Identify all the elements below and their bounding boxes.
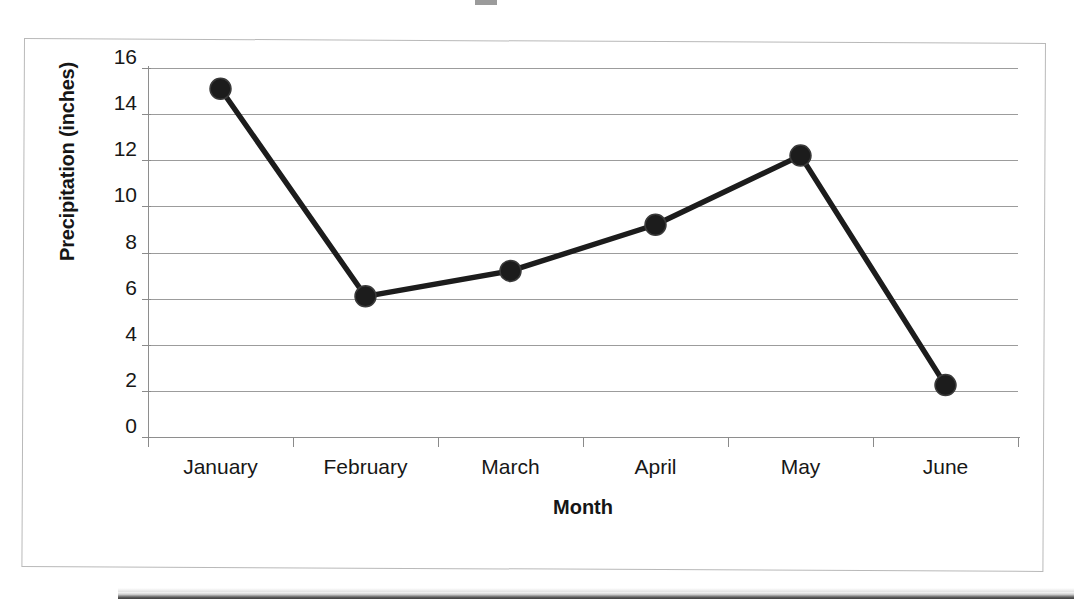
y-tick-mark: [142, 206, 151, 207]
x-tick-label: May: [728, 455, 873, 479]
x-tick-mark: [148, 437, 149, 447]
x-tick-label: April: [583, 455, 728, 479]
y-tick-mark: [142, 68, 151, 69]
x-tick-mark: [583, 437, 584, 447]
x-axis-title: Month: [148, 496, 1018, 519]
data-point-marker: [790, 145, 811, 166]
x-tick-mark: [1018, 437, 1019, 447]
x-tick-label: January: [148, 455, 293, 479]
data-point-marker: [500, 260, 521, 281]
y-tick-mark: [142, 114, 151, 115]
y-tick-mark: [142, 437, 151, 438]
y-tick-mark: [142, 345, 151, 346]
data-point-marker: [935, 375, 956, 396]
x-tick-label: June: [873, 455, 1018, 479]
x-tick-mark: [873, 437, 874, 447]
y-tick-mark: [142, 160, 151, 161]
scan-page-edge-artifact: [118, 592, 1074, 599]
line-chart: Precipitation (inches) 1614121086420 Mon…: [0, 0, 1074, 601]
data-point-marker: [355, 286, 376, 307]
y-tick-mark: [142, 391, 151, 392]
data-point-marker: [210, 78, 231, 99]
x-tick-mark: [438, 437, 439, 447]
series-line: [221, 89, 946, 385]
data-point-marker: [645, 214, 666, 235]
x-tick-mark: [293, 437, 294, 447]
x-tick-label: March: [438, 455, 583, 479]
y-tick-mark: [142, 253, 151, 254]
x-tick-mark: [728, 437, 729, 447]
y-tick-mark: [142, 299, 151, 300]
x-tick-label: February: [293, 455, 438, 479]
